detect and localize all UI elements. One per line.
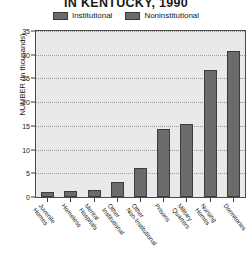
legend-item-noninstitutional: Noninstitutional (125, 11, 199, 20)
bar[interactable] (64, 191, 77, 197)
bar-slot (59, 31, 82, 197)
x-axis-labels: JuvenileHomesHomelessMentalHospitalsOthe… (36, 202, 245, 256)
bar-slot (222, 31, 245, 197)
bar-slot (82, 31, 105, 197)
bar-slot (106, 31, 129, 197)
y-tick-label: 10 (22, 146, 30, 153)
y-tick-label: 25 (22, 75, 30, 82)
y-tick-mark (31, 173, 35, 174)
x-tick-label: NursingHomes (194, 202, 218, 228)
bar[interactable] (134, 168, 147, 197)
legend-label-institutional: Institutional (72, 11, 112, 20)
bar[interactable] (88, 190, 101, 197)
x-tick-label: Prisons (153, 202, 171, 223)
y-tick-label: 15 (22, 122, 30, 129)
bar-series (36, 31, 245, 197)
bar[interactable] (111, 182, 124, 197)
y-tick-mark (31, 125, 35, 126)
x-tick-label: Homeless (60, 202, 83, 228)
bar[interactable] (41, 192, 54, 197)
y-axis: 05101520253035 (0, 30, 35, 198)
bar[interactable] (180, 124, 193, 197)
bar-slot (36, 31, 59, 197)
y-tick-mark (31, 31, 35, 32)
y-tick-label: 30 (22, 51, 30, 58)
bar-slot (152, 31, 175, 197)
page-title: IN KENTUCKY, 1990 (0, 0, 252, 10)
chart-legend: Institutional Noninstitutional (0, 11, 252, 20)
bar-slot (175, 31, 198, 197)
y-tick-mark (31, 197, 35, 198)
y-tick-mark (31, 78, 35, 79)
x-tick-label: JuvenileHomes (32, 202, 57, 229)
bar[interactable] (204, 70, 217, 197)
y-tick-label: 20 (22, 99, 30, 106)
y-tick-mark (31, 54, 35, 55)
bar[interactable] (227, 51, 240, 197)
y-tick-label: 0 (26, 194, 30, 201)
legend-item-institutional: Institutional (53, 11, 112, 20)
legend-label-noninstitutional: Noninstitutional (144, 11, 199, 20)
x-tick-label: MilitaryQuarters (171, 202, 197, 230)
x-tick-label: MentalHospitals (78, 202, 105, 231)
y-tick-label: 35 (22, 28, 30, 35)
legend-swatch-icon (125, 12, 140, 20)
bar-slot (129, 31, 152, 197)
x-tick-label: Dormitories (223, 202, 248, 232)
y-tick-label: 5 (26, 170, 30, 177)
bar[interactable] (157, 129, 170, 197)
chart-page: IN KENTUCKY, 1990 Institutional Noninsti… (0, 0, 252, 256)
legend-swatch-icon (53, 12, 68, 20)
y-tick-mark (31, 102, 35, 103)
y-tick-mark (31, 149, 35, 150)
bar-slot (199, 31, 222, 197)
